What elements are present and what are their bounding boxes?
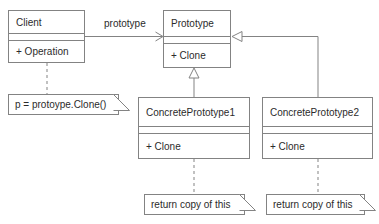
edge-label-prototype: prototype — [102, 18, 148, 29]
class-box-prototype[interactable]: Prototype + Clone — [163, 10, 231, 68]
note-text-concrete-prototype-2: return copy of this — [266, 194, 365, 215]
class-attributes-prototype — [164, 37, 230, 44]
class-box-concrete-prototype-1[interactable]: ConcretePrototype1 + Clone — [138, 97, 250, 159]
class-name-client: Client — [9, 11, 84, 34]
note-fold-corner-icon — [239, 194, 256, 211]
class-box-client[interactable]: Client + Operation — [8, 10, 85, 63]
note-client[interactable]: p = protoype.Clone() — [8, 94, 130, 115]
class-name-concrete-prototype-2: ConcretePrototype2 — [263, 98, 372, 127]
note-concrete-prototype-2[interactable]: return copy of this — [266, 194, 376, 215]
edge-client-uses-prototype — [85, 32, 163, 41]
class-operations-concrete-prototype-2: + Clone — [263, 134, 372, 158]
note-fold-corner-icon — [113, 94, 130, 111]
note-text-client: p = protoype.Clone() — [8, 94, 119, 115]
note-concrete-prototype-1[interactable]: return copy of this — [144, 194, 256, 215]
uml-diagram-canvas: prototype Client + Operation Prototype +… — [0, 0, 379, 224]
edge-concrete-prototype-2-inherits — [232, 32, 318, 98]
class-attributes-client — [9, 34, 84, 41]
class-operations-client: + Operation — [9, 41, 84, 62]
class-name-prototype: Prototype — [164, 11, 230, 37]
class-attributes-concrete-prototype-2 — [263, 127, 372, 134]
class-box-concrete-prototype-2[interactable]: ConcretePrototype2 + Clone — [262, 97, 373, 159]
class-name-concrete-prototype-1: ConcretePrototype1 — [139, 98, 249, 127]
note-fold-corner-icon — [359, 194, 376, 211]
class-operations-prototype: + Clone — [164, 44, 230, 67]
class-attributes-concrete-prototype-1 — [139, 127, 249, 134]
edge-concrete-prototype-1-inherits — [189, 68, 199, 97]
class-operations-concrete-prototype-1: + Clone — [139, 134, 249, 158]
note-text-concrete-prototype-1: return copy of this — [144, 194, 245, 215]
